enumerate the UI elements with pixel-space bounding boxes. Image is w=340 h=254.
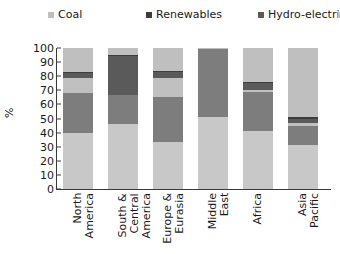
y-axis-tick-mark [57,118,61,119]
bar-segment-natural-gas [288,126,318,146]
y-axis-tick-mark [57,76,61,77]
bar-segment-coal [108,48,138,55]
legend-item-label: Coal [58,9,82,20]
y-axis-tick: 80 [40,70,57,83]
legend-item-hydro-electricity[interactable]: Hydro-electricity [258,9,338,20]
bar-stack[interactable] [198,48,228,189]
bar-stack[interactable] [288,48,318,189]
y-axis-tick-label: 0 [47,183,57,196]
y-axis-tick: 0 [47,183,57,196]
y-axis-tick-label: 20 [40,154,57,167]
bar-segment-natural-gas [63,93,93,132]
bar-segment-natural-gas [108,95,138,125]
bar-stack[interactable] [63,48,93,189]
bar-segment-nuclear-energy [153,78,183,98]
y-axis-tick-mark [57,146,61,147]
y-axis-tick-mark [57,174,61,175]
bar-segment-coal [153,48,183,71]
x-axis-category-label: North America [72,193,86,238]
legend-swatch-icon [48,12,54,18]
y-axis-tick-mark [57,104,61,105]
y-axis-tick-mark [57,90,61,91]
x-axis-category-label: South & Central America [117,193,131,238]
y-axis-tick-label: 30 [40,140,57,153]
bar-stack[interactable] [108,48,138,189]
legend-item-renewables[interactable]: Renewables [146,9,258,20]
bar-segment-nuclear-energy [63,78,93,94]
bar-segment-coal [243,48,273,82]
bar-segment-hydro-electricity [243,83,273,90]
y-axis-tick-mark [57,48,61,49]
bar-segment-oil [243,131,273,189]
y-axis-tick-label: 10 [40,168,57,181]
y-axis-tick-label: 90 [40,56,57,69]
y-axis-tick-label: 50 [40,112,57,125]
y-axis-tick-mark [57,160,61,161]
x-axis-category-label: Middle East [207,193,221,229]
y-axis-tick: 60 [40,98,57,111]
legend-swatch-icon [146,12,152,18]
x-axis-line [56,189,331,190]
bar-segment-natural-gas [153,97,183,142]
y-axis-tick: 90 [40,56,57,69]
y-axis-tick-mark [57,189,61,190]
x-axis-category-label: Africa [252,193,266,224]
chart-legend: CoalRenewablesHydro-electricityNuclear e… [48,7,338,22]
bar-segment-hydro-electricity [108,56,138,94]
y-axis-tick-label: 100 [33,42,57,55]
y-axis-tick-label: 40 [40,126,57,139]
y-axis-tick: 50 [40,112,57,125]
y-axis-tick: 10 [40,168,57,181]
legend-item-label: Hydro-electricity [268,9,340,20]
legend-item-coal[interactable]: Coal [48,9,146,20]
plot-area: 0102030405060708090100 [57,48,330,189]
y-axis-tick-label: 60 [40,98,57,111]
bar-segment-natural-gas [243,92,273,131]
legend-swatch-icon [258,12,264,18]
x-axis-category-label: Europe & Eurasia [162,193,176,244]
bar-segment-oil [108,124,138,189]
bar-stack[interactable] [243,48,273,189]
legend-item-label: Renewables [156,9,222,20]
x-axis-category-label: Asia Pacific [297,193,311,228]
y-axis-tick-label: 70 [40,84,57,97]
y-axis-tick: 30 [40,140,57,153]
bar-segment-oil [153,142,183,189]
y-axis-tick: 20 [40,154,57,167]
y-axis-tick: 100 [33,42,57,55]
bar-segment-oil [288,145,318,189]
bar-segment-oil [63,133,93,189]
bar-stack[interactable] [153,48,183,189]
bar-segment-coal [63,48,93,72]
y-axis-tick-mark [57,132,61,133]
y-axis-label: % [3,108,16,118]
y-axis-tick-mark [57,62,61,63]
bar-segment-coal [288,48,318,117]
y-axis-tick: 70 [40,84,57,97]
bar-segment-oil [198,117,228,189]
y-axis-tick-label: 80 [40,70,57,83]
bar-segment-natural-gas [198,49,228,117]
y-axis-tick: 40 [40,126,57,139]
